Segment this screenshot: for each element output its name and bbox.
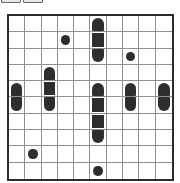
grid-cell-r6-c7[interactable] <box>123 114 139 130</box>
grid-cell-r4-c0[interactable] <box>9 81 25 97</box>
grid-cell-r0-c5[interactable] <box>90 16 106 32</box>
grid-cell-r5-c9[interactable] <box>156 97 172 113</box>
grid-cell-r0-c1[interactable] <box>25 16 41 32</box>
grid-cell-r7-c9[interactable] <box>156 130 172 146</box>
grid-cell-r6-c0[interactable] <box>9 114 25 130</box>
grid-cell-r0-c6[interactable] <box>107 16 123 32</box>
grid-cell-r0-c9[interactable] <box>156 16 172 32</box>
grid-cell-r3-c9[interactable] <box>156 65 172 81</box>
grid-cell-r6-c4[interactable] <box>74 114 90 130</box>
grid-cell-r8-c6[interactable] <box>107 146 123 162</box>
grid-cell-r0-c0[interactable] <box>9 16 25 32</box>
grid-cell-r0-c2[interactable] <box>42 16 58 32</box>
grid-cell-r6-c5[interactable] <box>90 114 106 130</box>
grid-cell-r4-c1[interactable] <box>25 81 41 97</box>
grid-cell-r7-c2[interactable] <box>42 130 58 146</box>
grid-cell-r2-c8[interactable] <box>139 49 155 65</box>
grid-cell-r3-c1[interactable] <box>25 65 41 81</box>
grid-cell-r8-c9[interactable] <box>156 146 172 162</box>
grid-cell-r1-c0[interactable] <box>9 32 25 48</box>
grid-cell-r6-c8[interactable] <box>139 114 155 130</box>
grid-cell-r0-c7[interactable] <box>123 16 139 32</box>
grid-cell-r8-c3[interactable] <box>58 146 74 162</box>
toolbar-button-2[interactable] <box>23 0 43 3</box>
grid-cell-r2-c4[interactable] <box>74 49 90 65</box>
grid-cell-r4-c3[interactable] <box>58 81 74 97</box>
grid-cell-r5-c8[interactable] <box>139 97 155 113</box>
grid-cell-r3-c4[interactable] <box>74 65 90 81</box>
grid-cell-r3-c7[interactable] <box>123 65 139 81</box>
grid-cell-r6-c1[interactable] <box>25 114 41 130</box>
battleships-grid[interactable] <box>7 14 174 181</box>
grid-cell-r4-c2[interactable] <box>42 81 58 97</box>
grid-cell-r5-c2[interactable] <box>42 97 58 113</box>
grid-cell-r1-c9[interactable] <box>156 32 172 48</box>
grid-cell-r2-c0[interactable] <box>9 49 25 65</box>
grid-cell-r5-c0[interactable] <box>9 97 25 113</box>
grid-cell-r8-c5[interactable] <box>90 146 106 162</box>
grid-cell-r4-c6[interactable] <box>107 81 123 97</box>
grid-cell-r3-c5[interactable] <box>90 65 106 81</box>
grid-cell-r2-c3[interactable] <box>58 49 74 65</box>
grid-cell-r1-c5[interactable] <box>90 32 106 48</box>
grid-cell-r7-c4[interactable] <box>74 130 90 146</box>
grid-cell-r9-c6[interactable] <box>107 163 123 179</box>
grid-cell-r3-c8[interactable] <box>139 65 155 81</box>
grid-cell-r4-c8[interactable] <box>139 81 155 97</box>
grid-cell-r5-c1[interactable] <box>25 97 41 113</box>
grid-cell-r2-c2[interactable] <box>42 49 58 65</box>
grid-cell-r4-c7[interactable] <box>123 81 139 97</box>
grid-cell-r2-c1[interactable] <box>25 49 41 65</box>
grid-cell-r5-c4[interactable] <box>74 97 90 113</box>
grid-cell-r8-c4[interactable] <box>74 146 90 162</box>
grid-cell-r7-c1[interactable] <box>25 130 41 146</box>
grid-cell-r1-c2[interactable] <box>42 32 58 48</box>
grid-cell-r7-c7[interactable] <box>123 130 139 146</box>
grid-cell-r5-c6[interactable] <box>107 97 123 113</box>
grid-cell-r5-c3[interactable] <box>58 97 74 113</box>
grid-cell-r1-c6[interactable] <box>107 32 123 48</box>
grid-cell-r6-c9[interactable] <box>156 114 172 130</box>
grid-cell-r6-c6[interactable] <box>107 114 123 130</box>
grid-cell-r7-c6[interactable] <box>107 130 123 146</box>
grid-cell-r3-c3[interactable] <box>58 65 74 81</box>
grid-cell-r0-c3[interactable] <box>58 16 74 32</box>
grid-cell-r7-c5[interactable] <box>90 130 106 146</box>
grid-cell-r2-c7[interactable] <box>123 49 139 65</box>
grid-cell-r8-c1[interactable] <box>25 146 41 162</box>
grid-cell-r6-c2[interactable] <box>42 114 58 130</box>
grid-cell-r8-c8[interactable] <box>139 146 155 162</box>
grid-cell-r1-c8[interactable] <box>139 32 155 48</box>
grid-cell-r7-c0[interactable] <box>9 130 25 146</box>
grid-cell-r9-c7[interactable] <box>123 163 139 179</box>
grid-cell-r6-c3[interactable] <box>58 114 74 130</box>
grid-cell-r8-c0[interactable] <box>9 146 25 162</box>
grid-cell-r9-c5[interactable] <box>90 163 106 179</box>
grid-cell-r5-c5[interactable] <box>90 97 106 113</box>
grid-cell-r5-c7[interactable] <box>123 97 139 113</box>
grid-cell-r9-c9[interactable] <box>156 163 172 179</box>
grid-cell-r1-c1[interactable] <box>25 32 41 48</box>
grid-cell-r2-c5[interactable] <box>90 49 106 65</box>
grid-cell-r9-c2[interactable] <box>42 163 58 179</box>
grid-cell-r3-c2[interactable] <box>42 65 58 81</box>
grid-cell-r9-c0[interactable] <box>9 163 25 179</box>
grid-cell-r4-c5[interactable] <box>90 81 106 97</box>
grid-cell-r3-c0[interactable] <box>9 65 25 81</box>
grid-cell-r1-c4[interactable] <box>74 32 90 48</box>
grid-cell-r9-c4[interactable] <box>74 163 90 179</box>
grid-cell-r9-c8[interactable] <box>139 163 155 179</box>
toolbar-button-1[interactable] <box>1 0 21 3</box>
grid-cell-r8-c7[interactable] <box>123 146 139 162</box>
grid-cell-r9-c3[interactable] <box>58 163 74 179</box>
grid-cell-r0-c4[interactable] <box>74 16 90 32</box>
grid-cell-r7-c3[interactable] <box>58 130 74 146</box>
grid-cell-r7-c8[interactable] <box>139 130 155 146</box>
grid-cell-r1-c3[interactable] <box>58 32 74 48</box>
grid-cell-r9-c1[interactable] <box>25 163 41 179</box>
grid-cell-r3-c6[interactable] <box>107 65 123 81</box>
grid-cell-r2-c9[interactable] <box>156 49 172 65</box>
grid-cell-r2-c6[interactable] <box>107 49 123 65</box>
grid-cell-r8-c2[interactable] <box>42 146 58 162</box>
grid-cell-r1-c7[interactable] <box>123 32 139 48</box>
